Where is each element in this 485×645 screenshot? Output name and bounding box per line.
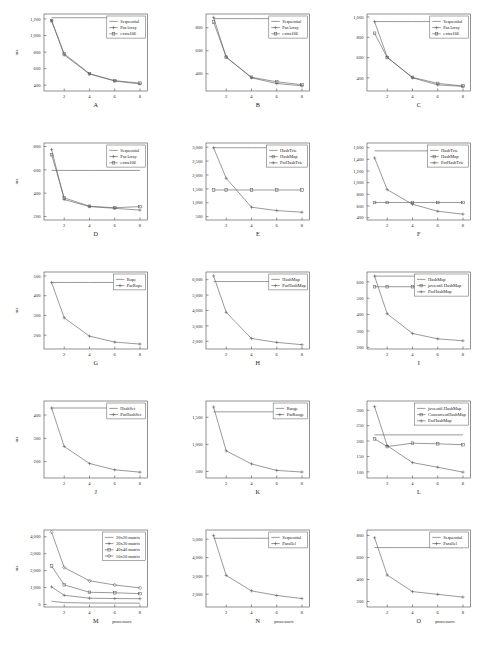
y-tick-label: 4,000 [192,308,203,314]
panel-label: E [256,230,260,237]
x-tick-label: 8 [301,352,304,357]
x-tick-label: 6 [114,223,117,228]
y-tick-label: 300 [34,436,42,441]
y-tick-label: 400 [357,577,365,582]
chart-svg-i: 2003004005006002468IHashMapjava.util.Has… [323,258,485,387]
data-point-marker [386,573,389,576]
x-tick-label: 2 [225,94,228,99]
y-tick-label: 3,000 [192,574,203,580]
panel-label: H [255,359,260,366]
x-axis-label: processors [274,619,294,624]
panel-label: C [417,101,421,108]
data-point-marker [300,597,303,600]
y-tick-label: 800 [195,25,203,30]
x-tick-label: 4 [88,94,91,99]
x-tick-label: 2 [386,352,389,357]
y-tick-label: 800 [34,50,42,55]
series-line-30x30-matrix [52,587,140,599]
panel-label: F [417,230,421,237]
y-tick-label: 500 [195,214,203,219]
x-tick-label: 8 [139,481,142,486]
y-tick-label: 100 [357,470,365,475]
data-point-marker [113,597,116,600]
y-tick-label: 500 [195,469,203,474]
chart-svg-e: 5001,0001,5002,0002,5003,0002468EHashTri… [162,129,324,258]
y-tick-label: 600 [34,168,42,173]
legend-label: ParRange [286,412,303,417]
legend-label: ParArray [444,25,461,30]
chart-panel-b: 4006008002468BSequentialParArrayextra166 [162,0,324,129]
chart-panel-n: 2,0003,0004,0005,0002468NprocessorsSeque… [162,516,324,645]
data-point-marker [249,462,252,465]
x-tick-label: 4 [250,352,253,357]
x-tick-label: 8 [301,223,304,228]
y-tick-label: 1,000 [354,180,365,186]
y-tick-label: 600 [357,55,365,60]
x-tick-label: 2 [225,481,228,486]
x-axis-label: processors [435,619,455,624]
x-tick-label: 8 [301,94,304,99]
y-tick-label: 500 [357,296,365,301]
legend-label: ParHashMap [428,419,452,424]
y-tick-label: 6,000 [192,277,203,283]
chart-svg-a: 4006008001,0001,2002468AmsSequentialParA… [0,0,162,129]
x-tick-label: 2 [63,481,66,486]
chart-panel-j: 2003004002468JmsHashSetParHashSet [0,387,162,516]
panel-label: J [95,488,98,495]
y-tick-label: 1,500 [192,187,203,193]
x-tick-label: 4 [88,223,91,228]
x-tick-label: 6 [437,352,440,357]
chart-svg-o: 2004006008002468OprocessorsSequentialPar… [323,516,485,645]
y-tick-label: 2,000 [192,592,203,598]
x-tick-label: 6 [275,352,278,357]
x-tick-label: 2 [63,94,66,99]
x-tick-label: 2 [386,610,389,615]
x-tick-label: 4 [412,610,415,615]
x-tick-label: 4 [250,94,253,99]
chart-svg-g: 2003004005002468GmsRopeParRope [0,258,162,387]
x-tick-label: 8 [301,610,304,615]
y-tick-label: 5,000 [192,293,203,299]
data-point-marker [212,274,215,277]
x-tick-label: 2 [63,610,66,615]
x-tick-label: 8 [462,223,465,228]
legend-label: Sequential [120,148,140,153]
y-tick-label: 300 [357,408,365,413]
y-tick-label: 1,600 [354,145,365,151]
legend-label: extra166 [444,32,460,37]
y-tick-label: 500 [34,274,42,279]
y-tick-label: 1,000 [30,33,41,39]
legend-label: HashMap [441,154,459,159]
legend-label: java.util.HashMap [427,283,462,288]
series-line-40x40-matrix [52,566,140,594]
chart-panel-g: 2003004005002468GmsRopeParRope [0,258,162,387]
chart-panel-m: 01,0002,0003,0004,0002468Mprocessorsms20… [0,516,162,645]
legend-label: 30x30 matrix [116,541,141,546]
data-point-marker [373,536,376,539]
x-tick-label: 6 [437,481,440,486]
legend-label: Parallel [444,541,458,546]
x-axis-label: processors [112,619,132,624]
y-tick-label: 3,000 [192,145,203,151]
legend-label: extra166 [120,32,136,37]
y-tick-label: 3,000 [192,324,203,330]
panel-label: L [417,488,421,495]
legend-label: 20x20 matrix [116,535,141,540]
data-point-marker [113,340,116,343]
data-point-marker [224,449,227,452]
chart-svg-c: 4006008001,0002468CSequentialParArrayext… [323,0,485,129]
legend-label: ParHashMap [282,283,306,288]
data-point-marker [462,470,465,473]
y-tick-label: 5,000 [192,537,203,543]
legend-label: ParRope [127,283,142,288]
y-tick-label: 1,000 [192,200,203,206]
y-tick-label: 0 [38,602,41,607]
panel-label: I [418,359,420,366]
x-tick-label: 2 [386,223,389,228]
x-tick-label: 2 [225,223,228,228]
x-tick-label: 6 [275,610,278,615]
chart-svg-k: 5001,0001,5002468KRangeParRange [162,387,324,516]
data-point-marker [50,148,53,151]
x-tick-label: 6 [114,352,117,357]
chart-svg-h: 2,0003,0004,0005,0006,0002468HHashMapPar… [162,258,324,387]
